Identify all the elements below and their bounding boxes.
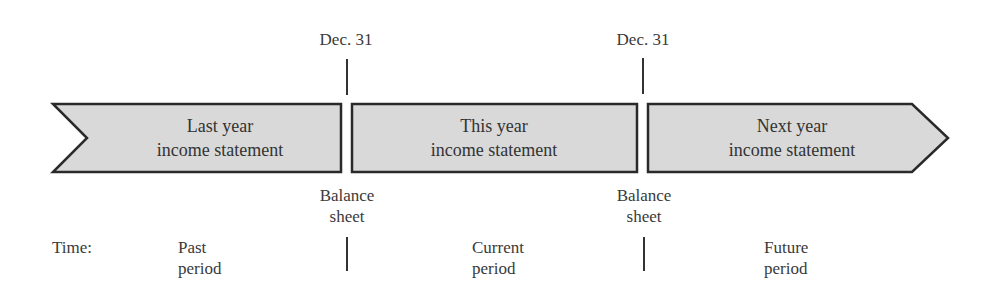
- balance-sheet-left-line2: sheet: [297, 206, 397, 227]
- year-end-tick-top-left: [346, 59, 348, 95]
- balance-sheet-right-line1: Balance: [594, 185, 694, 206]
- last-year-line2: income statement: [110, 138, 330, 162]
- balance-sheet-right-line2: sheet: [594, 206, 694, 227]
- balance-sheet-right: Balance sheet: [594, 185, 694, 227]
- year-end-tick-top-right: [642, 58, 644, 94]
- last-year-label: Last year income statement: [110, 114, 330, 162]
- last-year-line1: Last year: [110, 114, 330, 138]
- current-period-label: Current period: [472, 237, 524, 279]
- date-label-right: Dec. 31: [593, 29, 693, 50]
- balance-sheet-left: Balance sheet: [297, 185, 397, 227]
- time-label: Time:: [52, 237, 92, 258]
- future-period-line2: period: [764, 258, 808, 279]
- past-period-line1: Past: [178, 237, 221, 258]
- balance-sheet-left-line1: Balance: [297, 185, 397, 206]
- year-end-tick-bottom-left: [346, 237, 348, 271]
- current-period-line1: Current: [472, 237, 524, 258]
- next-year-label: Next year income statement: [682, 114, 902, 162]
- future-period-label: Future period: [764, 237, 808, 279]
- past-period-line2: period: [178, 258, 221, 279]
- this-year-line2: income statement: [384, 138, 604, 162]
- past-period-label: Past period: [178, 237, 221, 279]
- future-period-line1: Future: [764, 237, 808, 258]
- next-year-line2: income statement: [682, 138, 902, 162]
- current-period-line2: period: [472, 258, 524, 279]
- this-year-label: This year income statement: [384, 114, 604, 162]
- date-label-left: Dec. 31: [296, 29, 396, 50]
- year-end-tick-bottom-right: [643, 237, 645, 271]
- this-year-line1: This year: [384, 114, 604, 138]
- next-year-line1: Next year: [682, 114, 902, 138]
